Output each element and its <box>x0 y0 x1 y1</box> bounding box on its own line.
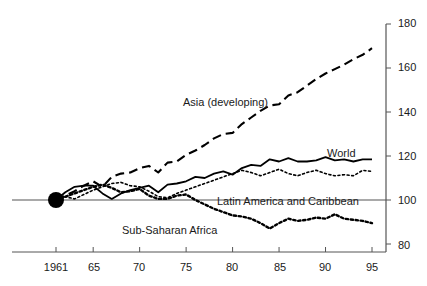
xtick-label-85: 85 <box>274 262 286 273</box>
axes-group <box>12 24 391 252</box>
xtick-label-1961: 1961 <box>44 262 68 273</box>
series-line-asia-developing <box>56 48 372 200</box>
ytick-label-140: 140 <box>398 107 416 118</box>
series-label-sub-saharan-africa: Sub-Saharan Africa <box>122 225 217 236</box>
series-label-world: World <box>327 148 356 159</box>
xtick-label-70: 70 <box>133 262 145 273</box>
ytick-label-160: 160 <box>398 62 416 73</box>
ytick-label-80: 80 <box>398 240 410 251</box>
chart-container: 180 160 140 120 100 80 1961 65 70 75 80 … <box>0 0 427 286</box>
xtick-label-95: 95 <box>366 262 378 273</box>
origin-marker <box>48 192 64 208</box>
series-label-latin-america-and-caribbean: Latin America and Caribbean <box>217 196 359 207</box>
xtick-label-75: 75 <box>180 262 192 273</box>
ytick-label-120: 120 <box>398 151 416 162</box>
series-line-world <box>56 157 372 200</box>
xtick-label-65: 65 <box>88 262 100 273</box>
ytick-label-180: 180 <box>398 18 416 29</box>
origin-dot-marker <box>48 192 64 208</box>
xtick-label-80: 80 <box>226 262 238 273</box>
series-label-asia-developing: Asia (developing) <box>183 97 268 108</box>
xtick-label-90: 90 <box>319 262 331 273</box>
chart-plot-area <box>0 0 427 286</box>
ytick-label-100: 100 <box>398 195 416 206</box>
